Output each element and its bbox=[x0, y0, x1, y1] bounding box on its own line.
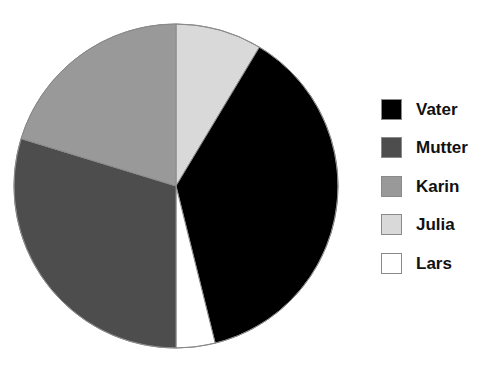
legend-swatch-lars bbox=[381, 253, 402, 274]
pie-svg bbox=[0, 0, 360, 369]
legend-swatch-vater bbox=[381, 99, 402, 120]
legend-label-julia: Julia bbox=[416, 216, 455, 233]
legend-item-karin[interactable]: Karin bbox=[381, 174, 491, 198]
pie-chart-figure: Vater Mutter Karin Julia Lars bbox=[0, 0, 491, 369]
pie-slice-group bbox=[14, 24, 338, 348]
chart-legend: Vater Mutter Karin Julia Lars bbox=[381, 97, 491, 290]
legend-swatch-karin bbox=[381, 176, 402, 197]
legend-item-vater[interactable]: Vater bbox=[381, 97, 491, 121]
legend-swatch-julia bbox=[381, 214, 402, 235]
legend-item-mutter[interactable]: Mutter bbox=[381, 136, 491, 160]
legend-swatch-mutter bbox=[381, 137, 402, 158]
legend-label-mutter: Mutter bbox=[416, 139, 468, 156]
legend-label-vater: Vater bbox=[416, 101, 458, 118]
legend-item-julia[interactable]: Julia bbox=[381, 213, 491, 237]
legend-label-karin: Karin bbox=[416, 178, 459, 195]
legend-item-lars[interactable]: Lars bbox=[381, 251, 491, 275]
pie-plot-area bbox=[0, 0, 360, 369]
legend-label-lars: Lars bbox=[416, 255, 452, 272]
